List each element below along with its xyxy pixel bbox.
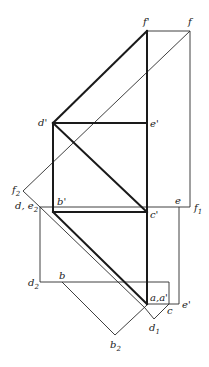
edge-dprime-cprime — [53, 123, 147, 212]
line-de2-diagonal — [40, 207, 145, 308]
label-e-prime-top: e' — [150, 118, 159, 129]
object-lines — [53, 31, 147, 304]
label-f2: f2 — [11, 184, 21, 198]
label-b-prime: b' — [57, 196, 66, 207]
label-f1: f1 — [193, 202, 202, 216]
label-e-prime-bottom: e' — [182, 299, 191, 310]
line-b-b2 — [62, 282, 115, 335]
label-d1: d1 — [149, 322, 160, 336]
label-d2: d2 — [28, 277, 39, 291]
line-apex-d1 — [145, 308, 154, 319]
line-b2-apex — [115, 305, 147, 335]
edge-dprime-fprime — [53, 31, 147, 123]
projection-diagram: f' f d' e' f2 d, e2 b' c' e f1 d2 b a,a'… — [0, 0, 209, 367]
label-b: b — [59, 270, 65, 281]
line-f-f2 — [23, 31, 190, 191]
label-f-prime: f' — [142, 16, 149, 27]
point-labels: f' f d' e' f2 d, e2 b' c' e f1 d2 b a,a'… — [11, 16, 202, 353]
label-b2: b2 — [110, 339, 121, 353]
construction-lines — [23, 31, 190, 335]
edge-bprime-a — [53, 212, 147, 304]
label-c: c — [167, 305, 173, 316]
label-e: e — [175, 195, 181, 206]
label-a-aprime: a,a' — [150, 292, 168, 303]
label-c-prime: c' — [150, 209, 158, 220]
label-d-prime: d' — [38, 117, 47, 128]
label-f: f — [187, 16, 194, 27]
